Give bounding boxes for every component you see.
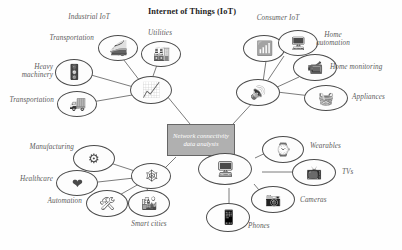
node-transportation-truck[interactable]: 🚚 bbox=[57, 91, 97, 117]
network-nodes-icon: 🕸 bbox=[144, 170, 159, 182]
tools-icon: 🛠 bbox=[99, 197, 116, 210]
label-automation: Automation bbox=[24, 197, 82, 205]
label-tvs: TVs bbox=[342, 168, 382, 176]
truck-icon: 🚚 bbox=[69, 97, 86, 111]
thermostat-icon: 🖥 bbox=[290, 37, 307, 50]
label-transportation-truck: Transportation bbox=[0, 96, 54, 104]
node-consumer-hub[interactable]: 🔊 bbox=[236, 79, 280, 106]
chart-trend-icon: 📈 bbox=[142, 83, 161, 98]
label-cameras: Cameras bbox=[300, 196, 350, 204]
smartphone-icon: 📱 bbox=[220, 211, 237, 225]
label-appliances: Appliances bbox=[352, 93, 402, 101]
appliances-icon: 🧺 bbox=[318, 92, 334, 105]
smartwatch-icon: ⌚ bbox=[275, 143, 291, 156]
node-appliances[interactable]: 🧺 bbox=[304, 85, 348, 111]
node-transportation-rail[interactable]: 🚄 bbox=[98, 35, 138, 61]
node-cameras[interactable]: 📷 bbox=[251, 186, 295, 213]
smart-speaker-icon: 🔊 bbox=[250, 86, 266, 99]
label-manufacturing: Manufacturing bbox=[12, 143, 74, 151]
label-phones: Phones bbox=[248, 222, 294, 230]
train-icon: 🚄 bbox=[109, 41, 128, 56]
heart-icon: ❤ bbox=[72, 177, 83, 190]
node-industrial-hub[interactable]: 📈 bbox=[130, 76, 172, 104]
traffic-signal-icon: 🚦 bbox=[65, 65, 84, 80]
camera-icon: 📷 bbox=[265, 193, 281, 206]
node-smart-cities[interactable]: 🏙 bbox=[128, 190, 170, 217]
security-camera-icon: 📹 bbox=[307, 61, 323, 74]
cityscape-icon: 🏙 bbox=[141, 197, 158, 210]
factory-skyline-icon: 🏭 bbox=[153, 47, 170, 61]
edge-home-monitoring bbox=[275, 77, 299, 88]
label-heavy-machinery: Heavy machinery bbox=[1, 63, 53, 79]
node-tvs[interactable]: 📺 bbox=[292, 159, 336, 186]
label-healthcare: Healthcare bbox=[3, 175, 53, 183]
node-healthcare[interactable]: ❤ bbox=[56, 170, 98, 196]
television-icon: 📺 bbox=[306, 166, 322, 179]
edge-industrial-hub-center bbox=[167, 96, 190, 124]
node-utilities[interactable]: 🏭 bbox=[141, 41, 181, 67]
node-wearables[interactable]: ⌚ bbox=[262, 136, 304, 163]
node-heavy-machinery[interactable]: 🚦 bbox=[55, 59, 93, 86]
devices-collage-icon: 🖥 bbox=[216, 162, 235, 177]
label-smart-cities: Smart cities bbox=[119, 220, 179, 228]
label-utilities: Utilities bbox=[131, 29, 189, 37]
center-analysis-box: Network connectivity data analysis bbox=[167, 124, 235, 156]
assembly-line-icon: ⚙ bbox=[88, 152, 100, 165]
group-label-consumer-iot: Consumer IoT bbox=[238, 14, 318, 22]
node-phones[interactable]: 📱 bbox=[206, 203, 250, 232]
wifi-router-icon: 📶 bbox=[256, 42, 273, 56]
label-home-monitoring: Home monitoring bbox=[330, 63, 400, 71]
node-services-hub[interactable]: 🕸 bbox=[131, 163, 171, 189]
iot-diagram-canvas: Internet of Things (IoT) bbox=[0, 0, 402, 250]
label-transportation-rail: Transportation bbox=[18, 34, 94, 42]
node-manufacturing[interactable]: ⚙ bbox=[73, 145, 115, 172]
group-label-industrial-iot: Industrial IoT bbox=[44, 13, 134, 21]
label-home-automation: Home automation bbox=[306, 31, 360, 47]
node-automation[interactable]: 🛠 bbox=[86, 190, 128, 217]
node-devices-hub[interactable]: 🖥 bbox=[198, 153, 252, 185]
label-wearables: Wearables bbox=[310, 142, 364, 150]
